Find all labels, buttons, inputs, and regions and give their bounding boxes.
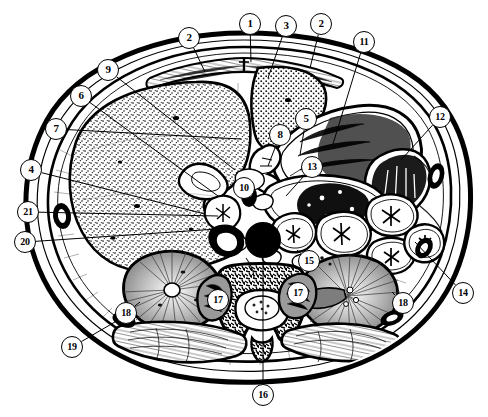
callout-label-18[interactable]: 18 (115, 302, 137, 324)
callout-label-7[interactable]: 7 (45, 118, 67, 140)
anatomy-figure: 21321196712851341021201514171718181916 (0, 0, 488, 417)
callout-label-18[interactable]: 18 (392, 292, 414, 314)
callout-label-14[interactable]: 14 (452, 282, 474, 304)
callout-label-21[interactable]: 21 (17, 201, 39, 223)
callout-label-17[interactable]: 17 (207, 289, 229, 311)
callout-label-12[interactable]: 12 (429, 106, 451, 128)
callout-label-6[interactable]: 6 (70, 85, 92, 107)
callout-label-8[interactable]: 8 (269, 124, 291, 146)
callout-label-5[interactable]: 5 (295, 108, 317, 130)
callout-label-1[interactable]: 1 (239, 13, 261, 35)
callout-label-2[interactable]: 2 (178, 27, 200, 49)
callout-label-16[interactable]: 16 (252, 384, 274, 406)
callout-label-3[interactable]: 3 (275, 15, 297, 37)
callout-label-13[interactable]: 13 (301, 156, 323, 178)
callout-label-9[interactable]: 9 (97, 59, 119, 81)
leader-line-1 (250, 35, 251, 62)
callout-label-19[interactable]: 19 (61, 336, 83, 358)
callout-label-11[interactable]: 11 (353, 31, 375, 53)
callout-label-20[interactable]: 20 (14, 231, 36, 253)
callout-label-17[interactable]: 17 (287, 282, 309, 304)
callout-label-10[interactable]: 10 (233, 177, 255, 199)
callout-label-2[interactable]: 2 (310, 13, 332, 35)
callout-label-15[interactable]: 15 (298, 250, 320, 272)
callout-label-4[interactable]: 4 (20, 159, 42, 181)
